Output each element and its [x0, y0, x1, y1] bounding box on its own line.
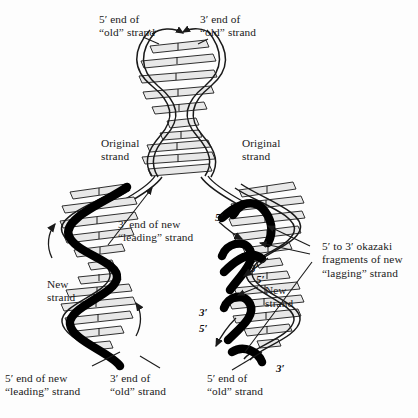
label-okazaki-fragments: 5′ to 3′ okazaki fragments of new “laggi…: [322, 240, 403, 280]
label-new-strand-right: New strand: [265, 284, 293, 311]
label-original-strand-right: Original strand: [242, 137, 280, 164]
marker-right-fork-5prime: 5′: [215, 211, 224, 223]
label-bottom-leading-5prime: 5′ end of new “leading” strand: [5, 372, 80, 399]
label-bottom-old-strand-right: 5′ end of “old” strand: [207, 372, 263, 399]
marker-bottom-right-3prime: 3′: [276, 362, 285, 374]
label-top-left-old-strand: 5′ end of “old” strand: [99, 13, 155, 40]
label-top-right-old-strand: 3′ end of “old” strand: [200, 13, 256, 40]
parental-duplex-rungs: [139, 40, 217, 176]
dna-replication-diagram: 5′ end of “old” strand 3′ end of “old” s…: [0, 0, 418, 418]
marker-okazaki3-5prime: 5′: [199, 322, 208, 334]
label-new-strand-left: New strand: [47, 278, 75, 305]
marker-okazaki2-3prime: 3′: [199, 306, 208, 318]
fork-junction: [120, 176, 244, 205]
label-original-strand-left: Original strand: [101, 137, 139, 164]
label-leading-3prime-end: 3′ end of new “leading” strand: [118, 218, 193, 245]
marker-okazaki2-5prime: 5′: [256, 273, 265, 285]
diagram-canvas: [0, 0, 418, 418]
label-bottom-old-strand-left: 3′ end of “old” strand: [110, 372, 166, 399]
